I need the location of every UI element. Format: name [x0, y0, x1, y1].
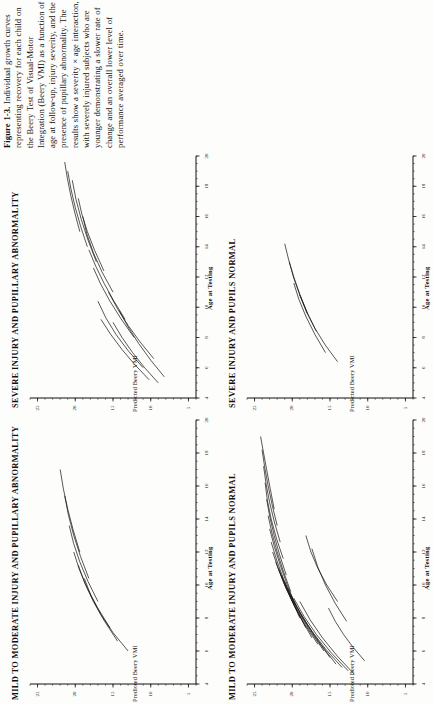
plot-area: 468101214161820 510152025 [217, 412, 434, 704]
svg-text:6: 6 [421, 366, 426, 369]
svg-text:6: 6 [421, 649, 426, 652]
svg-text:25: 25 [35, 691, 40, 697]
svg-text:4: 4 [204, 682, 209, 685]
svg-text:14: 14 [421, 516, 426, 522]
svg-text:18: 18 [204, 183, 209, 189]
svg-text:20: 20 [421, 153, 426, 159]
panel-mild-moderate-pupillary-abnormality: MILD TO MODERATE INJURY AND PUPILLARY AB… [0, 412, 217, 704]
svg-text:4: 4 [204, 396, 209, 399]
svg-text:8: 8 [421, 336, 426, 339]
svg-text:16: 16 [204, 214, 209, 220]
svg-text:15: 15 [327, 691, 332, 697]
y-axis-ticks: 510152025 [30, 398, 196, 411]
panel-severe-pupils-normal: SEVERE INJURY AND PUPILS NORMAL 46810121… [217, 150, 434, 412]
svg-text:20: 20 [72, 691, 77, 697]
svg-text:8: 8 [204, 336, 209, 339]
x-axis-label: Age at Testing [206, 267, 213, 310]
svg-text:20: 20 [72, 405, 77, 411]
growth-curves [65, 162, 165, 383]
panel-title: MILD TO MODERATE INJURY AND PUPILS NORMA… [228, 473, 237, 700]
svg-text:4: 4 [421, 682, 426, 685]
svg-text:20: 20 [421, 417, 426, 423]
svg-text:15: 15 [327, 405, 332, 411]
figure-label: Figure 1-3. [2, 107, 12, 148]
svg-text:20: 20 [289, 405, 294, 411]
x-axis-label: Age at Testing [423, 267, 430, 310]
svg-text:20: 20 [289, 691, 294, 697]
x-axis-label: Age at Testing [206, 547, 213, 590]
figure-caption-body: Individual growth curves representing re… [2, 1, 125, 148]
panel-severe-pupillary-abnormality: SEVERE INJURY AND PUPILLARY ABNORMALITY … [0, 150, 217, 412]
svg-text:14: 14 [421, 244, 426, 250]
figure-caption-text: Figure 1-3. Individual growth curves rep… [2, 0, 126, 148]
svg-text:4: 4 [421, 396, 426, 399]
svg-text:5: 5 [186, 406, 191, 409]
y-axis-label: Predicted Beery VMI [131, 645, 138, 702]
svg-text:5: 5 [403, 406, 408, 409]
svg-text:20: 20 [204, 417, 209, 423]
y-axis-label: Predicted Beery VMI [348, 355, 355, 412]
svg-text:18: 18 [421, 183, 426, 189]
svg-text:25: 25 [252, 691, 257, 697]
svg-text:25: 25 [35, 405, 40, 411]
svg-text:10: 10 [365, 405, 370, 411]
svg-text:8: 8 [421, 616, 426, 619]
svg-text:16: 16 [204, 483, 209, 489]
svg-text:14: 14 [204, 244, 209, 250]
svg-text:25: 25 [252, 405, 257, 411]
plot-area: 468101214161820 510152025 [0, 150, 217, 412]
y-axis-ticks: 510152025 [30, 684, 196, 697]
svg-text:10: 10 [148, 691, 153, 697]
svg-text:5: 5 [186, 692, 191, 695]
y-axis-ticks: 510152025 [247, 684, 413, 697]
svg-text:16: 16 [421, 483, 426, 489]
figure-caption-block: Figure 1-3. Individual growth curves rep… [0, 0, 220, 150]
figure-page: Figure 1-3. Individual growth curves rep… [0, 0, 434, 704]
svg-text:15: 15 [110, 691, 115, 697]
growth-curves [285, 244, 338, 362]
svg-text:15: 15 [110, 405, 115, 411]
y-axis-label: Predicted Beery VMI [131, 355, 138, 412]
svg-text:18: 18 [204, 450, 209, 456]
y-axis-label: Predicted Beery VMI [348, 645, 355, 702]
panel-title: SEVERE INJURY AND PUPILS NORMAL [228, 239, 237, 408]
plot-area: 468101214161820 510152025 [217, 150, 434, 412]
plot-area: 468101214161820 510152025 [0, 412, 217, 704]
svg-text:16: 16 [421, 214, 426, 220]
svg-text:18: 18 [421, 450, 426, 456]
svg-text:8: 8 [204, 616, 209, 619]
svg-text:6: 6 [204, 366, 209, 369]
svg-text:5: 5 [403, 692, 408, 695]
growth-curves [60, 470, 128, 652]
y-axis-ticks: 510152025 [247, 398, 413, 411]
panel-title: SEVERE INJURY AND PUPILLARY ABNORMALITY [11, 191, 20, 408]
svg-text:14: 14 [204, 516, 209, 522]
panel-title: MILD TO MODERATE INJURY AND PUPILLARY AB… [11, 426, 20, 700]
svg-text:6: 6 [204, 649, 209, 652]
svg-text:20: 20 [204, 153, 209, 159]
panel-mild-moderate-pupils-normal: MILD TO MODERATE INJURY AND PUPILS NORMA… [217, 412, 434, 704]
svg-text:10: 10 [148, 405, 153, 411]
growth-curves [261, 437, 365, 675]
svg-text:10: 10 [365, 691, 370, 697]
x-axis-label: Age at Testing [423, 547, 430, 590]
